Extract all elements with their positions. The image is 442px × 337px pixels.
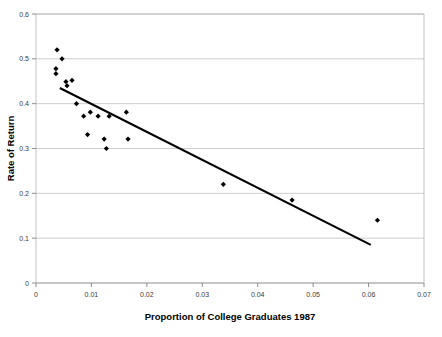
y-tick-label: 0.3: [19, 145, 29, 152]
x-tick-label: 0.07: [417, 291, 431, 298]
data-point: [102, 136, 107, 141]
y-tick-label: 0.5: [19, 55, 29, 62]
data-point: [88, 110, 93, 115]
data-point: [81, 114, 86, 119]
data-point: [85, 132, 90, 137]
scatter-chart: 00.010.020.030.040.050.060.07 00.10.20.3…: [0, 0, 442, 337]
axis-titles-group: Proportion of College Graduates 1987Rate…: [5, 116, 315, 322]
data-point: [63, 79, 68, 84]
data-point: [53, 66, 58, 71]
data-point: [69, 78, 74, 83]
y-tick-label: 0.4: [19, 100, 29, 107]
data-point: [53, 71, 58, 76]
x-tick-label: 0.03: [195, 291, 209, 298]
trendline: [60, 88, 371, 245]
x-tick-label: 0.04: [251, 291, 265, 298]
x-axis-title: Proportion of College Graduates 1987: [145, 311, 316, 322]
x-tick-label: 0.05: [306, 291, 320, 298]
y-axis-title: Rate of Return: [5, 116, 16, 182]
data-point: [221, 182, 226, 187]
y-tick-label: 0.6: [19, 11, 29, 18]
data-point: [59, 56, 64, 61]
x-tick-label: 0: [34, 291, 38, 298]
y-tick-label: 0.1: [19, 235, 29, 242]
data-point: [289, 197, 294, 202]
data-point: [64, 83, 69, 88]
data-points-group: [53, 47, 380, 223]
data-point: [125, 136, 130, 141]
data-point: [54, 47, 59, 52]
x-tick-label: 0.02: [140, 291, 154, 298]
y-axis-ticks: 00.10.20.30.40.50.6: [19, 11, 36, 287]
x-tick-label: 0.01: [85, 291, 99, 298]
y-tick-label: 0: [25, 280, 29, 287]
data-point: [375, 218, 380, 223]
data-point: [74, 101, 79, 106]
x-axis-ticks: 00.010.020.030.040.050.060.07: [34, 283, 431, 298]
trend-line: [60, 88, 371, 245]
data-point: [104, 146, 109, 151]
x-tick-label: 0.06: [362, 291, 376, 298]
y-tick-label: 0.2: [19, 190, 29, 197]
chart-svg: 00.010.020.030.040.050.060.07 00.10.20.3…: [0, 0, 442, 337]
data-point: [124, 110, 129, 115]
data-point: [95, 114, 100, 119]
